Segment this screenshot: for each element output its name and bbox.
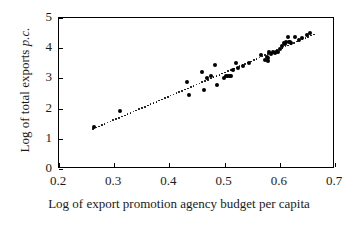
trendline-dot xyxy=(181,90,183,92)
trendline-dot xyxy=(115,118,117,120)
data-point xyxy=(231,68,235,72)
plot-frame xyxy=(58,17,334,168)
trendline-dot xyxy=(135,110,137,112)
data-point xyxy=(229,74,233,78)
trendline-dot xyxy=(173,94,175,96)
data-point xyxy=(187,93,191,97)
data-point xyxy=(241,64,245,68)
data-point xyxy=(213,63,217,67)
y-tick-label: 5 xyxy=(12,10,52,23)
trendline-dot xyxy=(118,117,120,119)
trendline-dot xyxy=(153,102,155,104)
data-point xyxy=(286,35,290,39)
trendline-dot xyxy=(227,70,229,72)
x-tick-label: 0.6 xyxy=(259,174,299,187)
trendline-dot xyxy=(104,123,106,125)
trendline-dot xyxy=(156,101,158,103)
trendline-dot xyxy=(256,58,258,60)
x-tick-mark xyxy=(225,163,226,167)
y-tick-mark xyxy=(59,109,63,110)
data-point xyxy=(234,61,238,65)
y-tick-mark xyxy=(59,169,63,170)
trendline-dot xyxy=(184,89,186,91)
data-point xyxy=(205,76,209,80)
data-point xyxy=(236,66,240,70)
trendline-dot xyxy=(285,46,287,48)
trendline-dot xyxy=(98,126,100,128)
trendline-dot xyxy=(107,122,109,124)
trendline-dot xyxy=(147,105,149,107)
trendline-dot xyxy=(201,81,203,83)
trendline-dot xyxy=(213,76,215,78)
trendline-dot xyxy=(196,84,198,86)
data-point xyxy=(202,88,206,92)
data-point xyxy=(200,70,204,74)
trendline-dot xyxy=(130,112,132,114)
x-tick-mark xyxy=(59,163,60,167)
trendline-dot xyxy=(178,91,180,93)
trendline-dot xyxy=(204,80,206,82)
trendline-dot xyxy=(253,59,255,61)
trendline-dot xyxy=(141,107,143,109)
trendline-dot xyxy=(293,42,295,44)
trendline-dot xyxy=(170,95,172,97)
data-point xyxy=(118,109,122,113)
x-tick-mark xyxy=(169,163,170,167)
trendline-dot xyxy=(164,97,166,99)
trendline-dot xyxy=(310,35,312,37)
trendline-dot xyxy=(112,119,114,121)
y-tick-mark xyxy=(59,48,63,49)
data-point xyxy=(185,80,189,84)
trendline-dot xyxy=(161,99,163,101)
data-point xyxy=(293,35,297,39)
data-point xyxy=(247,61,251,65)
x-tick-mark xyxy=(114,163,115,167)
trendline-dot xyxy=(176,92,178,94)
trendline-dot xyxy=(124,115,126,117)
trendline-dot xyxy=(199,83,201,85)
y-tick-label: 4 xyxy=(12,40,52,53)
x-axis-label: Log of export promotion agency budget pe… xyxy=(0,196,358,212)
trendline-dot xyxy=(259,57,261,59)
x-tick-mark xyxy=(335,163,336,167)
y-tick-label: 2 xyxy=(12,101,52,114)
trendline-dot xyxy=(158,100,160,102)
x-tick-label: 0.5 xyxy=(204,174,244,187)
trendline-dot xyxy=(167,96,169,98)
data-point xyxy=(266,59,270,63)
data-point xyxy=(289,41,293,45)
x-tick-label: 0.7 xyxy=(314,174,354,187)
trendline-dot xyxy=(133,111,135,113)
trendline-dot xyxy=(138,108,140,110)
trendline-dot xyxy=(287,45,289,47)
y-tick-mark xyxy=(59,139,63,140)
data-point xyxy=(215,83,219,87)
x-tick-mark xyxy=(280,163,281,167)
y-tick-label: 3 xyxy=(12,70,52,83)
trendline-dot xyxy=(216,75,218,77)
trendline-dot xyxy=(150,103,152,105)
trendline-dot xyxy=(313,34,315,36)
trendline-dot xyxy=(144,106,146,108)
y-axis-label: Log of total exports p.c. xyxy=(17,5,33,175)
x-tick-label: 0.3 xyxy=(93,174,133,187)
trendline-dot xyxy=(101,124,103,126)
trendline-dot xyxy=(110,121,112,123)
trendline-dot xyxy=(193,85,195,87)
data-point xyxy=(259,53,263,57)
y-tick-mark xyxy=(59,18,63,19)
trendline-dot xyxy=(127,113,129,115)
x-tick-label: 0.2 xyxy=(38,174,78,187)
x-tick-label: 0.4 xyxy=(148,174,188,187)
trendline-dot xyxy=(219,74,221,76)
trendline-dot xyxy=(221,73,223,75)
data-point xyxy=(300,36,304,40)
trendline-dot xyxy=(305,37,307,39)
trendline-dot xyxy=(121,116,123,118)
trendline-dot xyxy=(190,86,192,88)
y-tick-mark xyxy=(59,78,63,79)
chart-figure: Log of export promotion agency budget pe… xyxy=(0,0,358,227)
y-tick-label: 1 xyxy=(12,131,52,144)
trendline-dot xyxy=(224,72,226,74)
y-tick-label: 0 xyxy=(12,161,52,174)
